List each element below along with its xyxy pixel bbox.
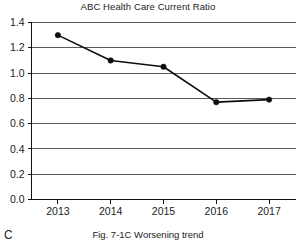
data-point-marker xyxy=(161,64,166,69)
axis-ticks xyxy=(28,23,270,204)
x-tick-label: 2016 xyxy=(205,205,229,217)
x-tick-label: 2014 xyxy=(99,205,123,217)
data-point-marker xyxy=(55,32,60,37)
y-tick-label: 1.0 xyxy=(10,67,25,79)
figure-panel: ABC Health Care Current Ratio 0.00.20.40… xyxy=(0,0,296,243)
y-tick-label: 1.2 xyxy=(10,41,25,53)
gridlines xyxy=(32,23,296,175)
line-chart-plot: 0.00.20.40.60.81.01.21.4 201320142015201… xyxy=(0,0,296,218)
x-tick-label: 2015 xyxy=(152,205,176,217)
data-point-markers xyxy=(55,32,272,104)
y-tick-label: 0.2 xyxy=(10,168,25,180)
x-tick-label: 2013 xyxy=(46,205,70,217)
data-point-marker xyxy=(266,97,271,102)
data-point-marker xyxy=(214,99,219,104)
y-tick-label: 0.8 xyxy=(10,92,25,104)
x-axis-tick-labels: 20132014201520162017 xyxy=(46,205,281,217)
y-tick-label: 0.0 xyxy=(10,193,25,205)
y-tick-label: 1.4 xyxy=(10,16,25,28)
y-tick-label: 0.6 xyxy=(10,117,25,129)
data-point-marker xyxy=(108,58,113,63)
y-tick-label: 0.4 xyxy=(10,143,25,155)
y-axis-tick-labels: 0.00.20.40.60.81.01.21.4 xyxy=(10,16,25,205)
x-tick-label: 2017 xyxy=(257,205,281,217)
figure-caption: Fig. 7-1C Worsening trend xyxy=(0,229,296,240)
